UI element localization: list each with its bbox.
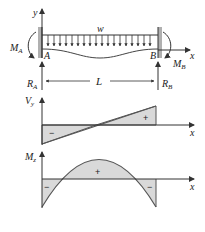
left-reaction-label: RA	[26, 78, 38, 91]
shear-diagram: Vy x + −	[25, 95, 195, 145]
moment-positive-sign: +	[95, 167, 100, 177]
left-moment-label: MA	[9, 42, 23, 55]
x-axis-label: x	[189, 50, 195, 61]
deflected-beam-curve	[42, 49, 158, 58]
right-moment-arrow	[163, 32, 171, 58]
right-reaction-label: RB	[161, 78, 173, 91]
length-label: L	[95, 75, 102, 87]
right-moment-label: MB	[172, 58, 186, 71]
shear-negative-sign: −	[49, 128, 54, 138]
distributed-load-arrows	[48, 35, 150, 46]
left-end-label: A	[43, 50, 51, 61]
y-axis-label: y	[32, 7, 38, 18]
left-moment-arrow	[28, 32, 36, 58]
left-wall	[38, 27, 42, 58]
shear-positive-sign: +	[143, 113, 148, 123]
moment-y-label: Mz	[24, 151, 36, 164]
right-wall	[158, 27, 162, 58]
shear-x-label: x	[189, 127, 195, 138]
fixed-beam-diagram: y x w A B	[0, 0, 205, 232]
moment-right-negative-sign: −	[147, 182, 152, 192]
moment-x-label: x	[189, 181, 195, 192]
moment-diagram: Mz x + − −	[24, 151, 195, 208]
moment-left-negative-sign: −	[44, 182, 49, 192]
right-end-label: B	[150, 50, 156, 61]
shear-y-label: Vy	[25, 95, 35, 108]
load-label: w	[97, 23, 104, 34]
beam-figure: y x w A B	[9, 7, 195, 91]
